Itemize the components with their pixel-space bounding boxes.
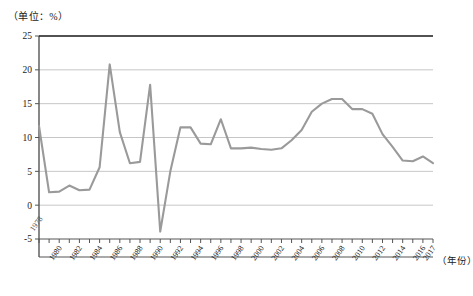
- x-axis-tick-label: 1996: [209, 244, 226, 262]
- x-axis-tick-label: 1990: [148, 244, 165, 262]
- gridlines-group: [39, 36, 433, 205]
- x-axis-tick-label: 1980: [47, 244, 64, 262]
- y-axis-labels-group: 2520151050-5: [23, 31, 33, 244]
- data-line: [39, 64, 433, 231]
- y-axis-tick-label: 20: [23, 65, 33, 75]
- annotations-group: 1978: [28, 215, 45, 233]
- x-axis-tick-label: 2006: [310, 244, 327, 262]
- inline-year-annotation: 1978: [28, 215, 45, 233]
- x-axis-tick-label: 2000: [249, 244, 266, 262]
- axis-frame-group: [39, 36, 433, 257]
- x-axis-tick-label: 2014: [391, 244, 408, 262]
- y-axis-tick-label: 5: [27, 167, 32, 177]
- x-axis-tick-label: 1982: [67, 244, 84, 262]
- x-axis-tick-label: 2004: [290, 244, 307, 262]
- x-axis-tick-label: 1984: [88, 244, 105, 262]
- x-axis-tick-label: 1998: [229, 244, 246, 262]
- data-series-group: [39, 64, 433, 231]
- x-axis-labels-group: 1980198219841986198819901992199419961998…: [47, 244, 437, 262]
- x-axis-tick-label: 1988: [128, 244, 145, 262]
- y-axis-tick-label: 15: [23, 99, 33, 109]
- x-axis-tick-label: 1986: [108, 244, 125, 262]
- line-chart: （单位：%） （年份） 1978 2520151050-5 1980198219…: [0, 0, 473, 296]
- x-axis-tick-label: 2002: [270, 244, 287, 262]
- x-axis-tick-label: 2010: [350, 244, 367, 262]
- x-axis-ticks-group: [39, 239, 433, 243]
- y-axis-tick-label: 25: [23, 31, 33, 41]
- y-axis-tick-label: 0: [27, 201, 32, 211]
- x-axis-tick-label: 1992: [169, 244, 186, 262]
- x-axis-tick-label: 2008: [330, 244, 347, 262]
- chart-plot-area: 1978 2520151050-5 1980198219841986198819…: [0, 0, 473, 296]
- y-axis-tick-label: 10: [23, 133, 33, 143]
- y-axis-tick-label: -5: [24, 234, 32, 244]
- x-axis-tick-label: 1994: [189, 244, 206, 262]
- x-axis-tick-label: 2012: [371, 244, 388, 262]
